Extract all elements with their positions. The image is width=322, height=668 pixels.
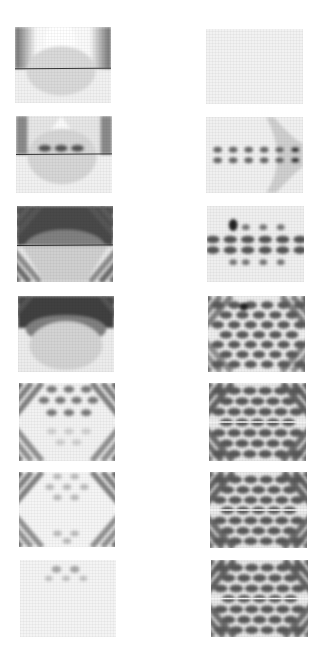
simulation-panel-l1 (15, 27, 111, 103)
simulation-panel-l7 (20, 560, 116, 637)
simulation-panel-l2 (16, 116, 112, 193)
simulation-panel-l3 (17, 206, 113, 282)
simulation-panel-r6 (210, 472, 307, 548)
simulation-panel-l4 (18, 296, 114, 372)
simulation-panel-r2 (206, 117, 303, 193)
simulation-panel-r4 (208, 296, 305, 372)
simulation-panel-l6 (19, 472, 115, 547)
simulation-panel-l5 (19, 383, 115, 461)
simulation-panel-r1 (206, 29, 303, 104)
simulation-panel-r5 (209, 383, 306, 461)
simulation-panel-r7 (211, 560, 308, 637)
simulation-panel-r3 (207, 206, 304, 282)
